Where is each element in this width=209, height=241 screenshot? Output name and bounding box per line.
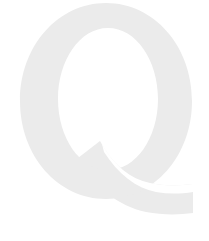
letter-q-glyph-svg (0, 0, 209, 241)
page-canvas: Q (0, 0, 209, 241)
letter-q-shape (20, 3, 193, 214)
watermark-layer (0, 0, 209, 241)
